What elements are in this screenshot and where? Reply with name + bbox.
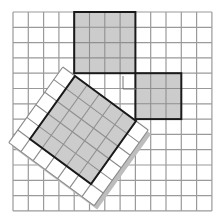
right-angle-marker (123, 76, 136, 89)
square-4x4 (74, 12, 135, 73)
diagram-canvas (0, 0, 223, 222)
square-3x3 (135, 73, 181, 119)
pythagoras-diagram (0, 0, 223, 222)
